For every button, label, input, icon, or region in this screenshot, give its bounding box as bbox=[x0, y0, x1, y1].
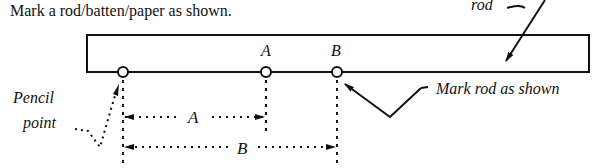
mark-rod-leader bbox=[345, 84, 421, 117]
mark-rod-label: Mark rod as shown bbox=[435, 80, 559, 97]
pencil-label-line2: point bbox=[22, 114, 56, 132]
rod-arrow bbox=[506, 0, 545, 61]
mark-rod-leader-tail bbox=[421, 87, 428, 88]
pencil-point-arrowhead bbox=[113, 84, 119, 96]
pencil-label-line1: Pencil bbox=[12, 89, 54, 106]
rod-leader bbox=[507, 6, 525, 8]
mark-a-circle bbox=[261, 67, 271, 77]
mark-b-circle bbox=[332, 67, 342, 77]
rod-marking-diagram: A B A B rod Mark rod as shown Pencil poi… bbox=[0, 0, 602, 168]
rod-label: rod bbox=[471, 0, 494, 13]
mark-b-label: B bbox=[331, 42, 341, 59]
dimension-b-label: B bbox=[237, 139, 248, 158]
pencil-point-leader bbox=[75, 92, 116, 147]
pencil-point-mark bbox=[118, 67, 128, 77]
dimension-a-label: A bbox=[187, 108, 199, 127]
mark-a-label: A bbox=[260, 42, 271, 59]
